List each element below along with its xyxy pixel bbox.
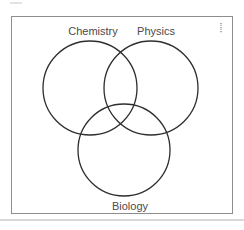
biology-label: Biology xyxy=(112,200,148,212)
physics-label: Physics xyxy=(137,25,175,37)
corner-watermark-icon xyxy=(220,23,222,33)
chemistry-circle xyxy=(43,41,137,135)
diagram-frame: Chemistry Physics Biology xyxy=(11,16,233,214)
page-bottom-rule xyxy=(0,219,244,221)
venn-circles xyxy=(12,17,232,213)
biology-circle xyxy=(78,104,170,196)
chemistry-label: Chemistry xyxy=(68,25,118,37)
physics-circle xyxy=(104,41,198,135)
page-smudge-mark xyxy=(10,2,22,4)
venn-diagram-figure: Chemistry Physics Biology xyxy=(0,0,244,230)
